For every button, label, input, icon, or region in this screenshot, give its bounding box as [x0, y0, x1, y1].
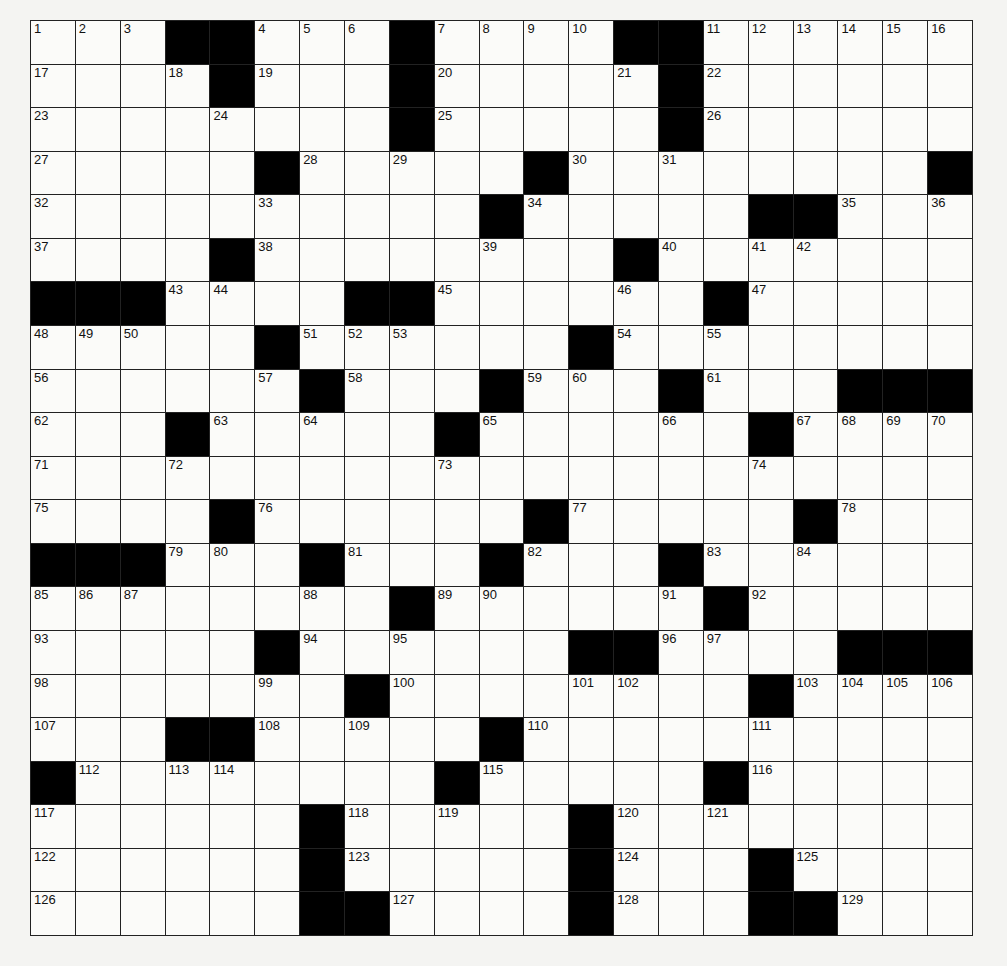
- grid-cell[interactable]: 85: [31, 587, 75, 630]
- grid-cell[interactable]: [883, 108, 927, 151]
- grid-cell[interactable]: [883, 326, 927, 369]
- grid-cell[interactable]: 38: [255, 239, 299, 282]
- grid-cell[interactable]: [390, 805, 434, 848]
- grid-cell[interactable]: [749, 805, 793, 848]
- grid-cell[interactable]: [121, 805, 165, 848]
- grid-cell[interactable]: [794, 282, 838, 325]
- grid-cell[interactable]: 118: [345, 805, 389, 848]
- grid-cell[interactable]: 35: [838, 195, 882, 238]
- grid-cell[interactable]: 8: [480, 21, 524, 64]
- grid-cell[interactable]: 65: [480, 413, 524, 456]
- grid-cell[interactable]: [345, 762, 389, 805]
- grid-cell[interactable]: 55: [704, 326, 748, 369]
- grid-cell[interactable]: 77: [569, 500, 613, 543]
- grid-cell[interactable]: 103: [794, 675, 838, 718]
- grid-cell[interactable]: 6: [345, 21, 389, 64]
- grid-cell[interactable]: [614, 195, 658, 238]
- grid-cell[interactable]: [883, 587, 927, 630]
- grid-cell[interactable]: [838, 108, 882, 151]
- grid-cell[interactable]: 19: [255, 65, 299, 108]
- grid-cell[interactable]: [480, 849, 524, 892]
- grid-cell[interactable]: 106: [928, 675, 972, 718]
- grid-cell[interactable]: 122: [31, 849, 75, 892]
- grid-cell[interactable]: 124: [614, 849, 658, 892]
- grid-cell[interactable]: [76, 65, 120, 108]
- grid-cell[interactable]: [838, 805, 882, 848]
- grid-cell[interactable]: [614, 762, 658, 805]
- grid-cell[interactable]: [210, 849, 254, 892]
- grid-cell[interactable]: [76, 413, 120, 456]
- grid-cell[interactable]: 128: [614, 892, 658, 935]
- grid-cell[interactable]: [569, 587, 613, 630]
- grid-cell[interactable]: 30: [569, 152, 613, 195]
- grid-cell[interactable]: [614, 587, 658, 630]
- grid-cell[interactable]: [435, 326, 479, 369]
- grid-cell[interactable]: [659, 849, 703, 892]
- grid-cell[interactable]: [749, 544, 793, 587]
- grid-cell[interactable]: 114: [210, 762, 254, 805]
- grid-cell[interactable]: 125: [794, 849, 838, 892]
- grid-cell[interactable]: 100: [390, 675, 434, 718]
- grid-cell[interactable]: [210, 370, 254, 413]
- grid-cell[interactable]: [480, 282, 524, 325]
- grid-cell[interactable]: [300, 762, 344, 805]
- grid-cell[interactable]: [345, 457, 389, 500]
- grid-cell[interactable]: [614, 500, 658, 543]
- grid-cell[interactable]: [435, 544, 479, 587]
- grid-cell[interactable]: 42: [794, 239, 838, 282]
- grid-cell[interactable]: [345, 195, 389, 238]
- grid-cell[interactable]: [166, 500, 210, 543]
- grid-cell[interactable]: [345, 65, 389, 108]
- grid-cell[interactable]: 25: [435, 108, 479, 151]
- grid-cell[interactable]: [659, 195, 703, 238]
- grid-cell[interactable]: 126: [31, 892, 75, 935]
- grid-cell[interactable]: [794, 65, 838, 108]
- grid-cell[interactable]: [121, 718, 165, 761]
- grid-cell[interactable]: [210, 631, 254, 674]
- grid-cell[interactable]: [883, 239, 927, 282]
- grid-cell[interactable]: [255, 587, 299, 630]
- grid-cell[interactable]: [614, 108, 658, 151]
- grid-cell[interactable]: [480, 326, 524, 369]
- grid-cell[interactable]: [749, 152, 793, 195]
- grid-cell[interactable]: 60: [569, 370, 613, 413]
- grid-cell[interactable]: [524, 239, 568, 282]
- grid-cell[interactable]: 66: [659, 413, 703, 456]
- grid-cell[interactable]: [76, 500, 120, 543]
- grid-cell[interactable]: 94: [300, 631, 344, 674]
- grid-cell[interactable]: 115: [480, 762, 524, 805]
- grid-cell[interactable]: 18: [166, 65, 210, 108]
- grid-cell[interactable]: 129: [838, 892, 882, 935]
- grid-cell[interactable]: 32: [31, 195, 75, 238]
- grid-cell[interactable]: 28: [300, 152, 344, 195]
- grid-cell[interactable]: 21: [614, 65, 658, 108]
- grid-cell[interactable]: [928, 762, 972, 805]
- grid-cell[interactable]: [838, 282, 882, 325]
- grid-cell[interactable]: 45: [435, 282, 479, 325]
- grid-cell[interactable]: 24: [210, 108, 254, 151]
- grid-cell[interactable]: 109: [345, 718, 389, 761]
- grid-cell[interactable]: [121, 108, 165, 151]
- grid-cell[interactable]: [480, 152, 524, 195]
- grid-cell[interactable]: [524, 892, 568, 935]
- grid-cell[interactable]: 127: [390, 892, 434, 935]
- grid-cell[interactable]: 33: [255, 195, 299, 238]
- grid-cell[interactable]: 73: [435, 457, 479, 500]
- grid-cell[interactable]: [659, 326, 703, 369]
- grid-cell[interactable]: [524, 587, 568, 630]
- grid-cell[interactable]: 41: [749, 239, 793, 282]
- grid-cell[interactable]: [166, 631, 210, 674]
- grid-cell[interactable]: [300, 457, 344, 500]
- grid-cell[interactable]: [794, 326, 838, 369]
- grid-cell[interactable]: [255, 282, 299, 325]
- grid-cell[interactable]: 64: [300, 413, 344, 456]
- grid-cell[interactable]: [121, 370, 165, 413]
- grid-cell[interactable]: 117: [31, 805, 75, 848]
- grid-cell[interactable]: 56: [31, 370, 75, 413]
- grid-cell[interactable]: [390, 718, 434, 761]
- grid-cell[interactable]: [749, 108, 793, 151]
- grid-cell[interactable]: [883, 892, 927, 935]
- grid-cell[interactable]: [883, 282, 927, 325]
- grid-cell[interactable]: 79: [166, 544, 210, 587]
- grid-cell[interactable]: 11: [704, 21, 748, 64]
